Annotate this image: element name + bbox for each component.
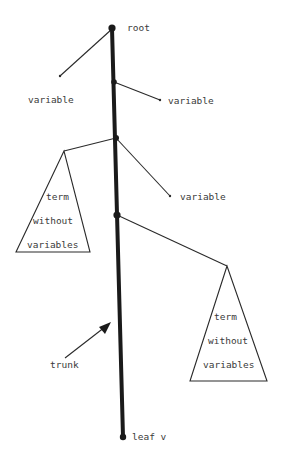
trunk-arrow-shaft — [65, 327, 105, 358]
leaf-label: leaf v — [132, 431, 167, 442]
trunk-label: trunk — [50, 359, 79, 370]
node-4 — [113, 211, 120, 218]
branch-n3-variable — [116, 138, 170, 196]
branch-n2-variable — [114, 82, 160, 100]
node-2 — [111, 79, 117, 85]
trunk-line — [112, 28, 123, 437]
trunk-arrow-head — [99, 322, 111, 334]
variable-label-2: variable — [168, 95, 214, 106]
variable-endpoint-2 — [159, 99, 161, 101]
root-label: root — [127, 22, 150, 33]
leaf-node — [120, 434, 126, 440]
left-term-label-line1: term — [46, 191, 69, 202]
variable-label-1: variable — [28, 94, 74, 105]
branch-root-variable — [60, 29, 112, 76]
node-3 — [113, 135, 119, 141]
variable-endpoint-3 — [169, 195, 171, 197]
right-term-label-line2: without — [208, 335, 248, 346]
right-term-label-line1: term — [214, 311, 237, 322]
right-term-label-line3: variables — [203, 359, 254, 370]
root-node — [108, 24, 115, 31]
variable-label-3: variable — [180, 191, 226, 202]
branch-n4-right-term — [117, 215, 227, 266]
left-term-label-line2: without — [33, 215, 73, 226]
term-tree-diagram: root variable variable variable term wit… — [0, 0, 283, 462]
branch-n3-left-term — [64, 138, 116, 151]
variable-endpoint-1 — [59, 75, 61, 77]
left-term-label-line3: variables — [27, 239, 78, 250]
